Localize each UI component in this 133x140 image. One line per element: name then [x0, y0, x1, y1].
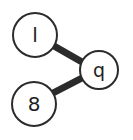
edge-group — [53, 46, 82, 93]
node-l-label: l — [32, 23, 38, 47]
node-q[interactable]: q — [80, 51, 118, 89]
graph-svg: l 8 q — [0, 0, 133, 140]
node-8-label: 8 — [28, 92, 41, 116]
node-8[interactable]: 8 — [12, 82, 56, 126]
edge-8-q[interactable] — [53, 78, 82, 93]
node-l[interactable]: l — [13, 13, 57, 57]
node-q-label: q — [93, 59, 105, 81]
node-group: l 8 q — [12, 13, 118, 126]
graph-canvas: l 8 q — [0, 0, 133, 140]
edge-l-q[interactable] — [54, 46, 82, 62]
